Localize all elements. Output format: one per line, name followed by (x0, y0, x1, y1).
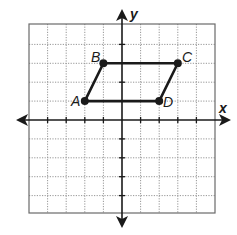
vertex-a-label: A (70, 93, 80, 109)
vertex-b-label: B (91, 49, 100, 65)
x-axis-label: x (218, 100, 228, 116)
vertex-b-dot (99, 59, 107, 67)
axes (16, 9, 231, 228)
vertex-d-dot (155, 97, 163, 105)
coordinate-plane: y x A B C D (0, 0, 237, 235)
vertex-c-label: C (182, 49, 193, 65)
vertex-a-dot (81, 97, 89, 105)
vertex-c-dot (174, 59, 182, 67)
vertex-d-label: D (163, 94, 173, 110)
y-axis-label: y (129, 6, 139, 22)
